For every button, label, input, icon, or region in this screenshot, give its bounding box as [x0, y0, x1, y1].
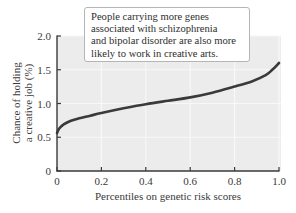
x-tick-label: 0.8	[228, 175, 242, 187]
y-axis-title-line1: Chance of holding	[10, 62, 22, 144]
y-tick-label: 0.5	[37, 131, 51, 143]
y-axis-title-line2: a creative job (%)	[22, 63, 35, 142]
y-tick-label: 1.5	[37, 64, 51, 76]
y-tick-label: 1.0	[37, 98, 51, 110]
annotation-box: People carrying more genes associated wi…	[84, 7, 250, 62]
annotation-line: People carrying more genes	[91, 11, 243, 23]
y-tick-label: 0	[46, 165, 52, 177]
x-tick-label: 0.4	[139, 175, 153, 187]
annotation-line: likely to work in creative arts.	[91, 48, 243, 60]
y-tick-label: 2.0	[37, 30, 51, 42]
annotation-line: and bipolar disorder are also more	[91, 35, 243, 47]
x-tick-label: 0	[54, 175, 60, 187]
x-axis-title: Percentiles on genetic risk scores	[95, 190, 241, 202]
y-axis-title: Chance of holding a creative job (%)	[10, 62, 35, 144]
x-tick-label: 0.2	[95, 175, 109, 187]
x-tick-label: 0.6	[183, 175, 197, 187]
annotation-line: associated with schizophrenia	[91, 23, 243, 35]
x-tick-label: 1.0	[272, 175, 286, 187]
